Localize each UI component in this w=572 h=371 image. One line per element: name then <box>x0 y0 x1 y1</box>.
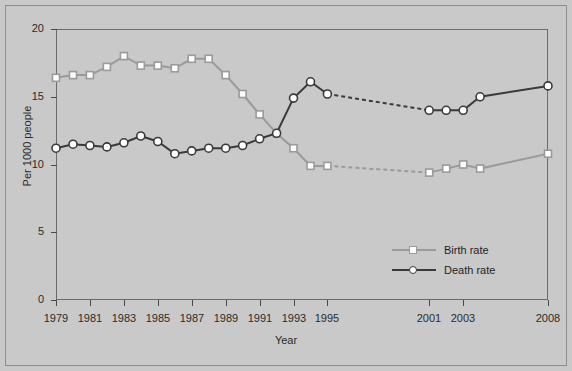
x-axis-tick-mark <box>327 300 328 306</box>
legend-marker-square <box>409 246 417 254</box>
legend-swatch <box>392 263 436 277</box>
chart-figure: 05101520 1979198119831985198719891991199… <box>0 0 572 371</box>
x-axis-tick-mark <box>260 300 261 306</box>
y-axis-tick-label: 5 <box>18 226 44 237</box>
legend-marker-circle <box>409 266 417 274</box>
chart-legend: Birth rateDeath rate <box>392 240 522 284</box>
x-axis-tick-mark <box>463 300 464 306</box>
x-axis-tick-mark <box>226 300 227 306</box>
x-axis-tick-mark <box>124 300 125 306</box>
x-axis-tick-mark <box>429 300 430 306</box>
y-axis-tick-label: 0 <box>18 294 44 305</box>
x-axis-tick-mark <box>192 300 193 306</box>
y-axis-title: Per 1000 people <box>21 66 33 226</box>
x-axis-tick-label: 2003 <box>443 312 483 324</box>
y-axis-tick-mark <box>51 29 57 30</box>
y-axis-tick-mark <box>51 165 57 166</box>
legend-label: Birth rate <box>444 244 489 256</box>
legend-item-death-rate: Death rate <box>392 260 522 280</box>
x-axis-title: Year <box>206 334 366 346</box>
y-axis-tick-label: 20 <box>18 23 44 34</box>
x-axis-tick-mark <box>548 300 549 306</box>
x-axis-tick-label: 2008 <box>528 312 568 324</box>
y-axis-tick-mark <box>51 232 57 233</box>
x-axis-tick-mark <box>90 300 91 306</box>
legend-label: Death rate <box>444 264 495 276</box>
x-axis-tick-mark <box>158 300 159 306</box>
y-axis-tick-mark <box>51 97 57 98</box>
x-axis-tick-label: 1995 <box>307 312 347 324</box>
x-axis-tick-mark <box>56 300 57 306</box>
legend-item-birth-rate: Birth rate <box>392 240 522 260</box>
legend-swatch <box>392 243 436 257</box>
x-axis-tick-mark <box>294 300 295 306</box>
